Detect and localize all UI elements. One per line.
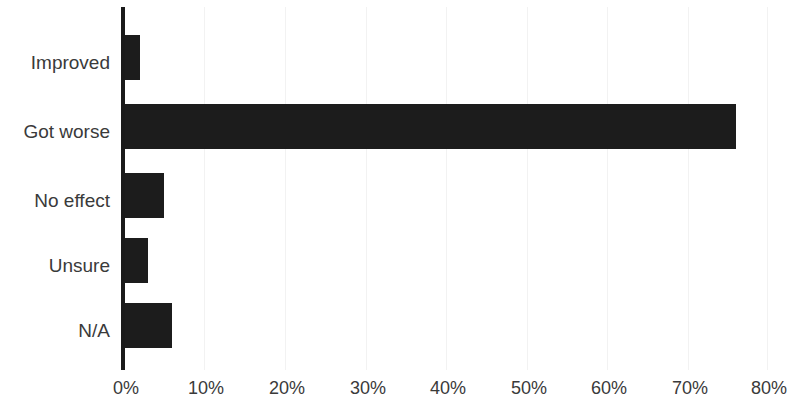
bar-chart: Improved Got worse No effect Unsure N/A …: [0, 0, 792, 406]
bar-unsure: [124, 238, 148, 283]
xtick-label: 60%: [569, 379, 649, 399]
category-label-got-worse: Got worse: [0, 122, 110, 141]
bar-got-worse: [124, 104, 736, 149]
xtick-label: 0%: [86, 379, 166, 399]
value-axis-line: [121, 7, 125, 370]
plot-area: [124, 7, 768, 370]
xtick-label: 70%: [650, 379, 730, 399]
xtick-label: 20%: [247, 379, 327, 399]
gridline: [285, 7, 286, 370]
xtick-label: 50%: [489, 379, 569, 399]
category-label-na: N/A: [0, 321, 110, 340]
xtick-label: 30%: [328, 379, 408, 399]
gridline: [366, 7, 367, 370]
value-axis-tick-labels: 0% 10% 20% 30% 40% 50% 60% 70% 80%: [0, 379, 792, 405]
gridline: [607, 7, 608, 370]
gridline: [688, 7, 689, 370]
bar-improved: [124, 35, 140, 80]
gridline: [204, 7, 205, 370]
gridline: [446, 7, 447, 370]
category-label-no-effect: No effect: [0, 191, 110, 210]
bar-na: [124, 303, 172, 348]
bar-no-effect: [124, 173, 164, 218]
gridline: [527, 7, 528, 370]
xtick-label: 40%: [408, 379, 488, 399]
xtick-label: 80%: [729, 379, 792, 399]
gridline: [767, 7, 768, 370]
category-label-unsure: Unsure: [0, 256, 110, 275]
category-axis-labels: Improved Got worse No effect Unsure N/A: [0, 0, 110, 406]
xtick-label: 10%: [166, 379, 246, 399]
category-label-improved: Improved: [0, 53, 110, 72]
